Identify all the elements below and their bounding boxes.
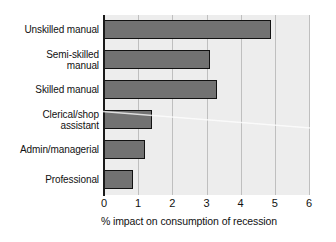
bar [104,170,133,189]
y-axis-label-line: assistant [0,120,99,132]
bar-row [104,105,309,135]
y-axis-label-line: manual [0,60,99,72]
bar-row [104,165,309,195]
x-axis-title: % impact on consumption of recession [0,215,336,227]
x-tick-label: 6 [299,197,319,209]
y-axis-line [103,15,105,196]
y-axis-label-line: Semi-skilled [0,49,99,61]
x-tick-label: 0 [94,197,114,209]
bar [104,110,152,129]
x-axis-tick-labels: 0123456 [104,197,309,213]
y-axis-label-line: Professional [0,174,99,186]
x-tick-label: 2 [162,197,182,209]
bar [104,140,145,159]
y-axis-label: Admin/managerial [0,144,99,156]
x-tick-label: 4 [231,197,251,209]
bar [104,20,271,39]
y-axis-label-line: Admin/managerial [0,144,99,156]
bar [104,80,217,99]
y-axis-label-line: Clerical/shop [0,109,99,121]
bar-row [104,15,309,45]
x-tick-label: 5 [265,197,285,209]
bar-chart-figure: Unskilled manualSemi-skilledmanualSkille… [0,0,336,242]
y-axis-label: Semi-skilledmanual [0,49,99,72]
y-axis-label-line: Unskilled manual [0,24,99,36]
y-axis-label: Skilled manual [0,84,99,96]
x-tick-label: 3 [197,197,217,209]
y-axis-category-labels: Unskilled manualSemi-skilledmanualSkille… [0,15,99,195]
bar-row [104,45,309,75]
bar [104,50,210,69]
gridline-6 [309,15,310,195]
bar-row [104,75,309,105]
bar-row [104,135,309,165]
plot-area [104,15,309,195]
y-axis-label-line: Skilled manual [0,84,99,96]
y-axis-label: Professional [0,174,99,186]
y-axis-label: Unskilled manual [0,24,99,36]
y-axis-label: Clerical/shopassistant [0,109,99,132]
x-tick-label: 1 [128,197,148,209]
